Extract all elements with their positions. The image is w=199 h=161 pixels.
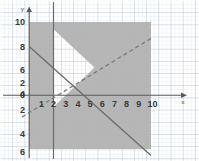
shaded-region bbox=[29, 22, 151, 149]
y-tick-neg4: 4 bbox=[20, 129, 25, 139]
y-tick-8: 8 bbox=[20, 42, 25, 52]
y-tick-neg6: 6 bbox=[20, 147, 25, 157]
x-tick-3: 3 bbox=[63, 99, 68, 109]
y-tick-0: 0 bbox=[20, 90, 25, 100]
x-tick-2: 2 bbox=[51, 99, 56, 109]
x-tick-4: 4 bbox=[75, 99, 80, 109]
chart-svg: 10 8 6 4 2 0 2 4 6 1 2 3 4 5 6 7 8 9 10 … bbox=[0, 0, 199, 161]
y-tick-neg2: 2 bbox=[20, 105, 25, 115]
x-tick-6: 6 bbox=[100, 99, 105, 109]
chart-container: 10 8 6 4 2 0 2 4 6 1 2 3 4 5 6 7 8 9 10 … bbox=[0, 0, 199, 161]
x-tick-10: 10 bbox=[147, 99, 157, 109]
x-tick-5: 5 bbox=[88, 99, 93, 109]
y-tick-6: 6 bbox=[20, 65, 25, 75]
x-tick-1: 1 bbox=[39, 99, 44, 109]
x-tick-9: 9 bbox=[136, 99, 141, 109]
x-tick-8: 8 bbox=[124, 99, 129, 109]
x-tick-7: 7 bbox=[112, 99, 117, 109]
y-tick-10: 10 bbox=[15, 17, 25, 27]
y-tick-2: 2 bbox=[20, 78, 25, 88]
